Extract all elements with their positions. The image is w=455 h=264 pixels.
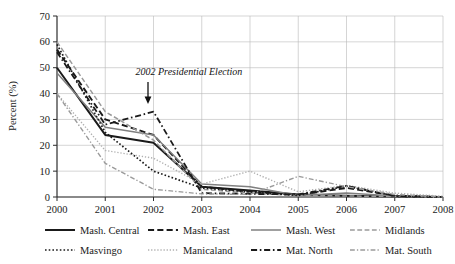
legend-item: Mat. North <box>251 245 333 256</box>
x-tick-label: 2007 <box>384 204 405 215</box>
legend-label: Masvingo <box>80 245 122 256</box>
y-tick-label: 70 <box>40 11 51 22</box>
y-tick-label: 20 <box>40 140 51 151</box>
legend-label: Mash. East <box>183 225 230 236</box>
grid-lines <box>57 16 443 197</box>
legend-label: Manicaland <box>183 245 233 256</box>
y-tick-label: 50 <box>40 62 51 73</box>
y-tick-label: 0 <box>45 192 50 203</box>
y-axis-title: Percent (%) <box>7 81 19 131</box>
legend-item: Mat. South <box>350 245 432 256</box>
line-chart: 010203040506070 200020012002200320042005… <box>0 0 455 264</box>
x-tick-label: 2000 <box>47 204 68 215</box>
x-tick-label: 2003 <box>191 204 212 215</box>
y-tick-label: 60 <box>40 36 51 47</box>
annotation-label: 2002 Presidential Election <box>136 66 243 77</box>
legend-label: Mash. West <box>286 225 335 236</box>
legend-label: Mat. North <box>286 245 333 256</box>
x-tick-label: 2004 <box>240 204 262 215</box>
legend-item: Mash. West <box>251 225 335 236</box>
y-tick-labels: 010203040506070 <box>40 11 58 203</box>
y-tick-label: 10 <box>40 166 51 177</box>
legend-label: Mat. South <box>385 245 432 256</box>
x-tick-labels: 200020012002200320042005200620072008 <box>47 197 454 215</box>
election-annotation: 2002 Presidential Election <box>136 66 243 104</box>
legend: Mash. CentralMash. EastMash. WestMidland… <box>45 225 432 256</box>
down-arrow-icon <box>145 82 152 104</box>
legend-label: Midlands <box>385 225 425 236</box>
legend-item: Masvingo <box>45 245 122 256</box>
x-tick-label: 2005 <box>288 204 309 215</box>
x-tick-label: 2001 <box>95 204 116 215</box>
legend-label: Mash. Central <box>80 225 140 236</box>
legend-item: Mash. East <box>148 225 230 236</box>
x-tick-label: 2002 <box>143 204 164 215</box>
y-tick-label: 40 <box>40 88 51 99</box>
chart-container: 010203040506070 200020012002200320042005… <box>0 0 455 264</box>
legend-item: Midlands <box>350 225 425 236</box>
x-tick-label: 2008 <box>433 204 454 215</box>
legend-item: Manicaland <box>148 245 233 256</box>
x-tick-label: 2006 <box>336 204 357 215</box>
legend-item: Mash. Central <box>45 225 140 236</box>
y-tick-label: 30 <box>40 114 51 125</box>
